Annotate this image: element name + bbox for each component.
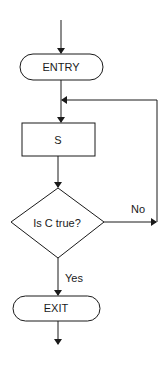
entry-label: ENTRY [42,62,79,73]
process-label: S [54,135,61,146]
decision-label: Is C true? [33,218,81,229]
exit-label: EXIT [44,303,68,314]
flowchart-canvas [0,0,165,368]
yes-label: Yes [65,273,83,284]
no-label: No [131,204,145,215]
